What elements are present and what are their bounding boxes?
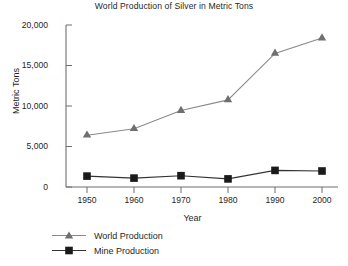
legend-item-world-production[interactable]: World Production bbox=[50, 228, 270, 243]
y-axis-ticks bbox=[66, 25, 72, 187]
legend-item-mine-production[interactable]: Mine Production bbox=[50, 243, 270, 258]
x-tick-label-1960: 1960 bbox=[114, 195, 154, 205]
series-markers-mine-production bbox=[83, 167, 326, 183]
legend-triangle-marker-icon bbox=[50, 228, 88, 243]
series-line-mine-production bbox=[87, 170, 322, 179]
x-tick-label-2000: 2000 bbox=[302, 195, 342, 205]
x-axis-ticks bbox=[87, 187, 322, 193]
chart-legend: World Production Mine Production bbox=[50, 228, 270, 258]
legend-label-mine-production: Mine Production bbox=[94, 246, 159, 256]
x-tick-label-1990: 1990 bbox=[255, 195, 295, 205]
x-tick-label-1980: 1980 bbox=[208, 195, 248, 205]
x-axis-label: Year bbox=[60, 213, 325, 223]
series-line-world-production bbox=[87, 38, 322, 135]
legend-label-world-production: World Production bbox=[94, 231, 163, 241]
x-tick-label-1950: 1950 bbox=[67, 195, 107, 205]
plot-area bbox=[0, 0, 348, 266]
chart-figure: World Production of Silver in Metric Ton… bbox=[0, 0, 348, 266]
legend-square-marker-icon bbox=[50, 243, 88, 258]
x-tick-label-1970: 1970 bbox=[161, 195, 201, 205]
